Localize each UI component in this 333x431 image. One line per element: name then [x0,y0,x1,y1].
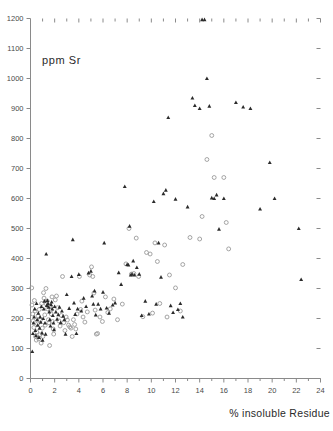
y-tick-label: 1100 [7,44,23,53]
x-tick-label: 4 [77,386,81,395]
y-tick-label: 600 [11,194,24,203]
x-tick-label: 2 [53,386,57,395]
y-tick-label: 500 [11,224,24,233]
y-tick-label: 1000 [7,74,24,83]
y-tick-label: 0 [19,374,23,383]
x-tick-label: 10 [147,386,155,395]
x-tick-label: 14 [195,386,203,395]
x-tick-label: 8 [125,386,129,395]
x-tick-label: 22 [292,386,300,395]
x-tick-label: 24 [316,386,324,395]
x-tick-label: 20 [268,386,276,395]
x-tick-label: 16 [220,386,228,395]
x-axis-title: % insoluble Residue [229,407,330,419]
y-tick-label: 100 [11,344,24,353]
scatter-plot: 0100200300400500600700800900100011001200… [0,0,333,431]
y-tick-label: 800 [11,134,24,143]
chart-container: 0100200300400500600700800900100011001200… [0,0,333,431]
y-tick-label: 200 [11,314,24,323]
x-tick-label: 0 [28,386,32,395]
x-tick-label: 12 [171,386,179,395]
y-axis-title: ppm Sr [42,54,81,66]
x-tick-label: 6 [101,386,105,395]
x-tick-label: 18 [244,386,252,395]
y-tick-label: 300 [11,284,24,293]
y-tick-label: 1200 [7,14,24,23]
y-tick-label: 400 [11,254,24,263]
y-tick-label: 700 [11,164,24,173]
y-tick-label: 900 [11,104,24,113]
